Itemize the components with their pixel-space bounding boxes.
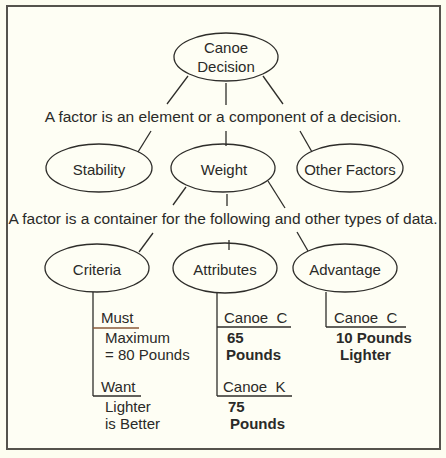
criteria-want-heading: Want	[101, 378, 135, 395]
attributes-canoe-k-line2: Pounds	[230, 415, 285, 432]
root-label-line2: Decision	[197, 57, 255, 76]
datatype-criteria-label: Criteria	[73, 260, 121, 279]
criteria-must-heading: Must	[101, 309, 134, 326]
caption-factor-element: A factor is an element or a component of…	[45, 108, 402, 126]
caption-factor-container: A factor is a container for the followin…	[8, 210, 437, 228]
attributes-canoe-k-line1: 75	[228, 398, 245, 415]
advantage-canoe-c-line1: 10 Pounds	[336, 329, 412, 346]
factor-weight-label: Weight	[201, 160, 247, 179]
factor-other-factors-label: Other Factors	[304, 160, 396, 179]
criteria-must-line1: Maximum	[105, 329, 170, 346]
criteria-must-line2: = 80 Pounds	[105, 346, 190, 363]
advantage-canoe-c-line2: Lighter	[340, 346, 391, 363]
factor-stability-label: Stability	[73, 160, 126, 179]
attributes-canoe-c-heading: Canoe C	[224, 309, 287, 326]
criteria-want-line1: Lighter	[105, 398, 151, 415]
attributes-canoe-c-line1: 65	[227, 329, 244, 346]
root-node-label: Canoe Decision	[197, 38, 255, 76]
criteria-want-line2: is Better	[105, 415, 160, 432]
datatype-advantage-label: Advantage	[309, 260, 381, 279]
attributes-canoe-c-line2: Pounds	[226, 346, 281, 363]
advantage-canoe-c-heading: Canoe C	[334, 309, 397, 326]
root-label-line1: Canoe	[197, 38, 255, 57]
datatype-attributes-label: Attributes	[193, 260, 256, 279]
attributes-canoe-k-heading: Canoe K	[223, 378, 286, 395]
